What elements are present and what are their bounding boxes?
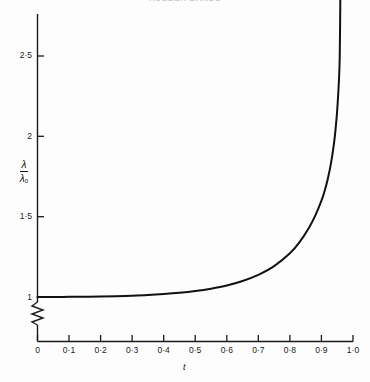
y-tick-label-2: 2 (4, 131, 32, 141)
x-tick-label-0-6: 0·6 (212, 345, 242, 355)
x-tick-label-0-9: 0·9 (306, 345, 336, 355)
x-tick-label-0-1: 0·1 (54, 345, 84, 355)
y-axis-label-numerator: λ (20, 160, 28, 170)
x-tick-label-0-2: 0·2 (86, 345, 116, 355)
x-axis-ticks (38, 335, 354, 342)
x-tick-label-0-3: 0·3 (117, 345, 147, 355)
plot-area (0, 0, 370, 382)
x-tick-label-0: 0 (23, 345, 53, 355)
y-axis-break-zigzag (32, 302, 43, 325)
x-tick-label-1-0: 1·0 (338, 345, 368, 355)
x-tick-label-0-4: 0·4 (149, 345, 179, 355)
x-tick-label-0-7: 0·7 (243, 345, 273, 355)
x-tick-label-0-5: 0·5 (180, 345, 210, 355)
data-curve (38, 0, 341, 297)
x-axis-label: t (183, 362, 186, 372)
y-axis-ticks (38, 56, 45, 297)
y-tick-label-1: 1 (4, 292, 32, 302)
x-tick-label-0-8: 0·8 (275, 345, 305, 355)
y-axis-label: λ λ0 (12, 160, 36, 186)
y-axis-label-denominator: λ0 (20, 173, 28, 186)
y-tick-label-1-5: 1·5 (4, 211, 32, 221)
y-axis-label-fraction-bar (20, 171, 28, 172)
chart-figure: RUBBER BANDS (0, 0, 370, 382)
y-tick-label-2-5: 2·5 (4, 50, 32, 60)
